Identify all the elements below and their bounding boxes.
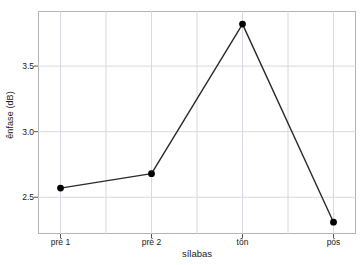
x-tick-label: pós [327,237,341,247]
x-axis-title: sílabas [38,248,356,259]
chart-figure: ênfase (dB) 2.53.03.5 pré 1pré 2tônpós s… [0,0,362,265]
x-tick-label: pré 1 [51,237,70,247]
x-tick-label: tôn [237,237,249,247]
x-tick-label: pré 2 [142,237,161,247]
x-axis-tick-labels: pré 1pré 2tônpós [0,0,362,265]
